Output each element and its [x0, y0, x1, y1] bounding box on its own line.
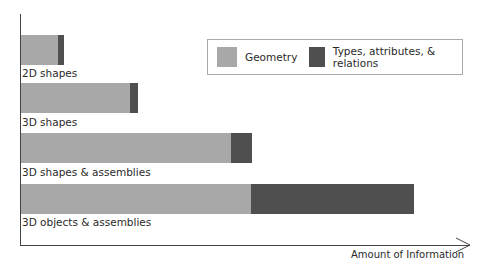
bar-2d-shapes: [21, 35, 64, 65]
legend: Geometry Types, attributes, & relations: [207, 39, 463, 75]
bar-segment-geometry: [21, 35, 58, 65]
bar-segment-types: [58, 35, 64, 65]
legend-swatch-geometry: [217, 47, 237, 67]
legend-item-types: Types, attributes, & relations: [309, 45, 450, 69]
bar-3d-shapes-assemblies: [21, 133, 252, 163]
bar-segment-types: [251, 184, 414, 214]
bar-label: 3D shapes & assemblies: [22, 166, 151, 178]
legend-swatch-types: [309, 47, 325, 67]
bar-segment-geometry: [21, 184, 251, 214]
bar-label: 3D objects & assemblies: [22, 216, 151, 228]
legend-item-geometry: Geometry: [217, 47, 297, 67]
bar-3d-objects-assemblies: [21, 184, 414, 214]
bar-segment-geometry: [21, 133, 231, 163]
bar-segment-types: [231, 133, 252, 163]
bar-segment-geometry: [21, 83, 130, 113]
x-axis-line: [20, 245, 470, 246]
x-axis-label: Amount of Information: [351, 249, 464, 260]
bar-label: 2D shapes: [22, 67, 77, 79]
bar-3d-shapes: [21, 83, 138, 113]
bar-segment-types: [130, 83, 138, 113]
bar-label: 3D shapes: [22, 116, 77, 128]
legend-label: Types, attributes, & relations: [333, 45, 450, 69]
legend-label: Geometry: [245, 51, 297, 63]
